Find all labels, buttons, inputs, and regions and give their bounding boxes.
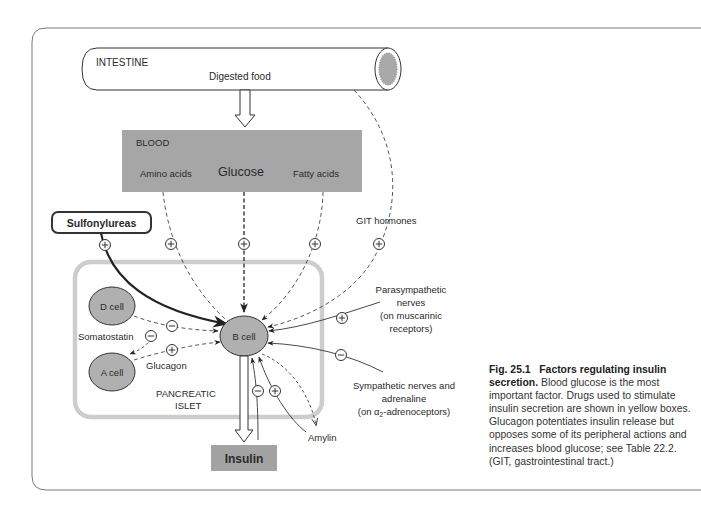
insulin-feedback-minus-sign: − bbox=[253, 386, 264, 397]
fatty-acids-label: Fatty acids bbox=[293, 168, 339, 179]
sympathetic-line2: adrenaline bbox=[382, 393, 426, 404]
amino-acids-plus-sign: + bbox=[166, 239, 177, 250]
a-cell-label: A cell bbox=[101, 367, 124, 378]
amino-acids-label: Amino acids bbox=[140, 168, 192, 179]
digested-food-arrow bbox=[235, 90, 255, 127]
glucagon-label: Glucagon bbox=[146, 360, 187, 371]
glucose-plus-sign: + bbox=[239, 239, 250, 250]
intestine: INTESTINE Digested food bbox=[82, 48, 401, 90]
caption-body: Blood glucose is the most important fact… bbox=[489, 377, 691, 467]
sympathetic-line3: (on α2-adrenoceptors) bbox=[358, 406, 451, 418]
b-cell-label: B cell bbox=[232, 331, 255, 342]
figure-caption: Fig. 25.1 Factors regulating insulin sec… bbox=[489, 363, 701, 468]
parasympathetic-arrow bbox=[269, 302, 380, 331]
git-hormones-arrow bbox=[268, 90, 393, 327]
somatostatin-a-cell-minus-sign: − bbox=[146, 331, 157, 342]
amylin-label: Amylin bbox=[308, 432, 337, 443]
d-cell-label: D cell bbox=[100, 301, 124, 312]
glucagon-plus-sign: + bbox=[167, 345, 178, 356]
git-hormones-label: GIT hormones bbox=[356, 215, 417, 226]
parasympathetic-line3: (on muscarinic bbox=[380, 310, 442, 321]
insulin-secretion-arrow bbox=[235, 356, 253, 442]
fatty-acids-plus-sign: + bbox=[310, 239, 321, 250]
blood-label: BLOOD bbox=[136, 137, 169, 148]
git-hormones-plus-sign: + bbox=[374, 239, 385, 250]
sulfonylureas-plus-sign: + bbox=[100, 240, 111, 251]
intestine-label: INTESTINE bbox=[96, 57, 149, 68]
digested-food-label: Digested food bbox=[209, 71, 271, 82]
somatostatin-b-cell-minus-sign: − bbox=[167, 321, 178, 332]
blood-box: BLOOD Amino acids Glucose Fatty acids bbox=[122, 130, 362, 192]
amino-acids-arrow bbox=[163, 192, 232, 325]
sympathetic-minus-sign: − bbox=[336, 350, 347, 361]
sulfonylureas-label: Sulfonylureas bbox=[67, 217, 137, 229]
caption-fig-number: Fig. 25.1 bbox=[489, 364, 531, 375]
parasympathetic-plus-sign: + bbox=[337, 313, 348, 324]
amylin-plus-sign: + bbox=[270, 386, 281, 397]
parasympathetic-line2: nerves bbox=[397, 297, 426, 308]
insulin-feedback-arrow bbox=[252, 358, 258, 440]
somatostatin-label: Somatostatin bbox=[78, 331, 133, 342]
fatty-acids-arrow bbox=[262, 192, 323, 320]
parasympathetic-line1: Parasympathetic bbox=[376, 284, 447, 295]
islet-label-line1: PANCREATIC bbox=[156, 388, 216, 399]
parasympathetic-line4: receptors) bbox=[390, 323, 433, 334]
sympathetic-arrow bbox=[268, 343, 383, 372]
insulin-label: Insulin bbox=[225, 452, 264, 466]
sympathetic-line1: Sympathetic nerves and bbox=[353, 380, 455, 391]
islet-label-line2: ISLET bbox=[175, 400, 202, 411]
glucose-label: Glucose bbox=[218, 165, 264, 179]
amylin-feedback-arrow bbox=[259, 357, 306, 432]
